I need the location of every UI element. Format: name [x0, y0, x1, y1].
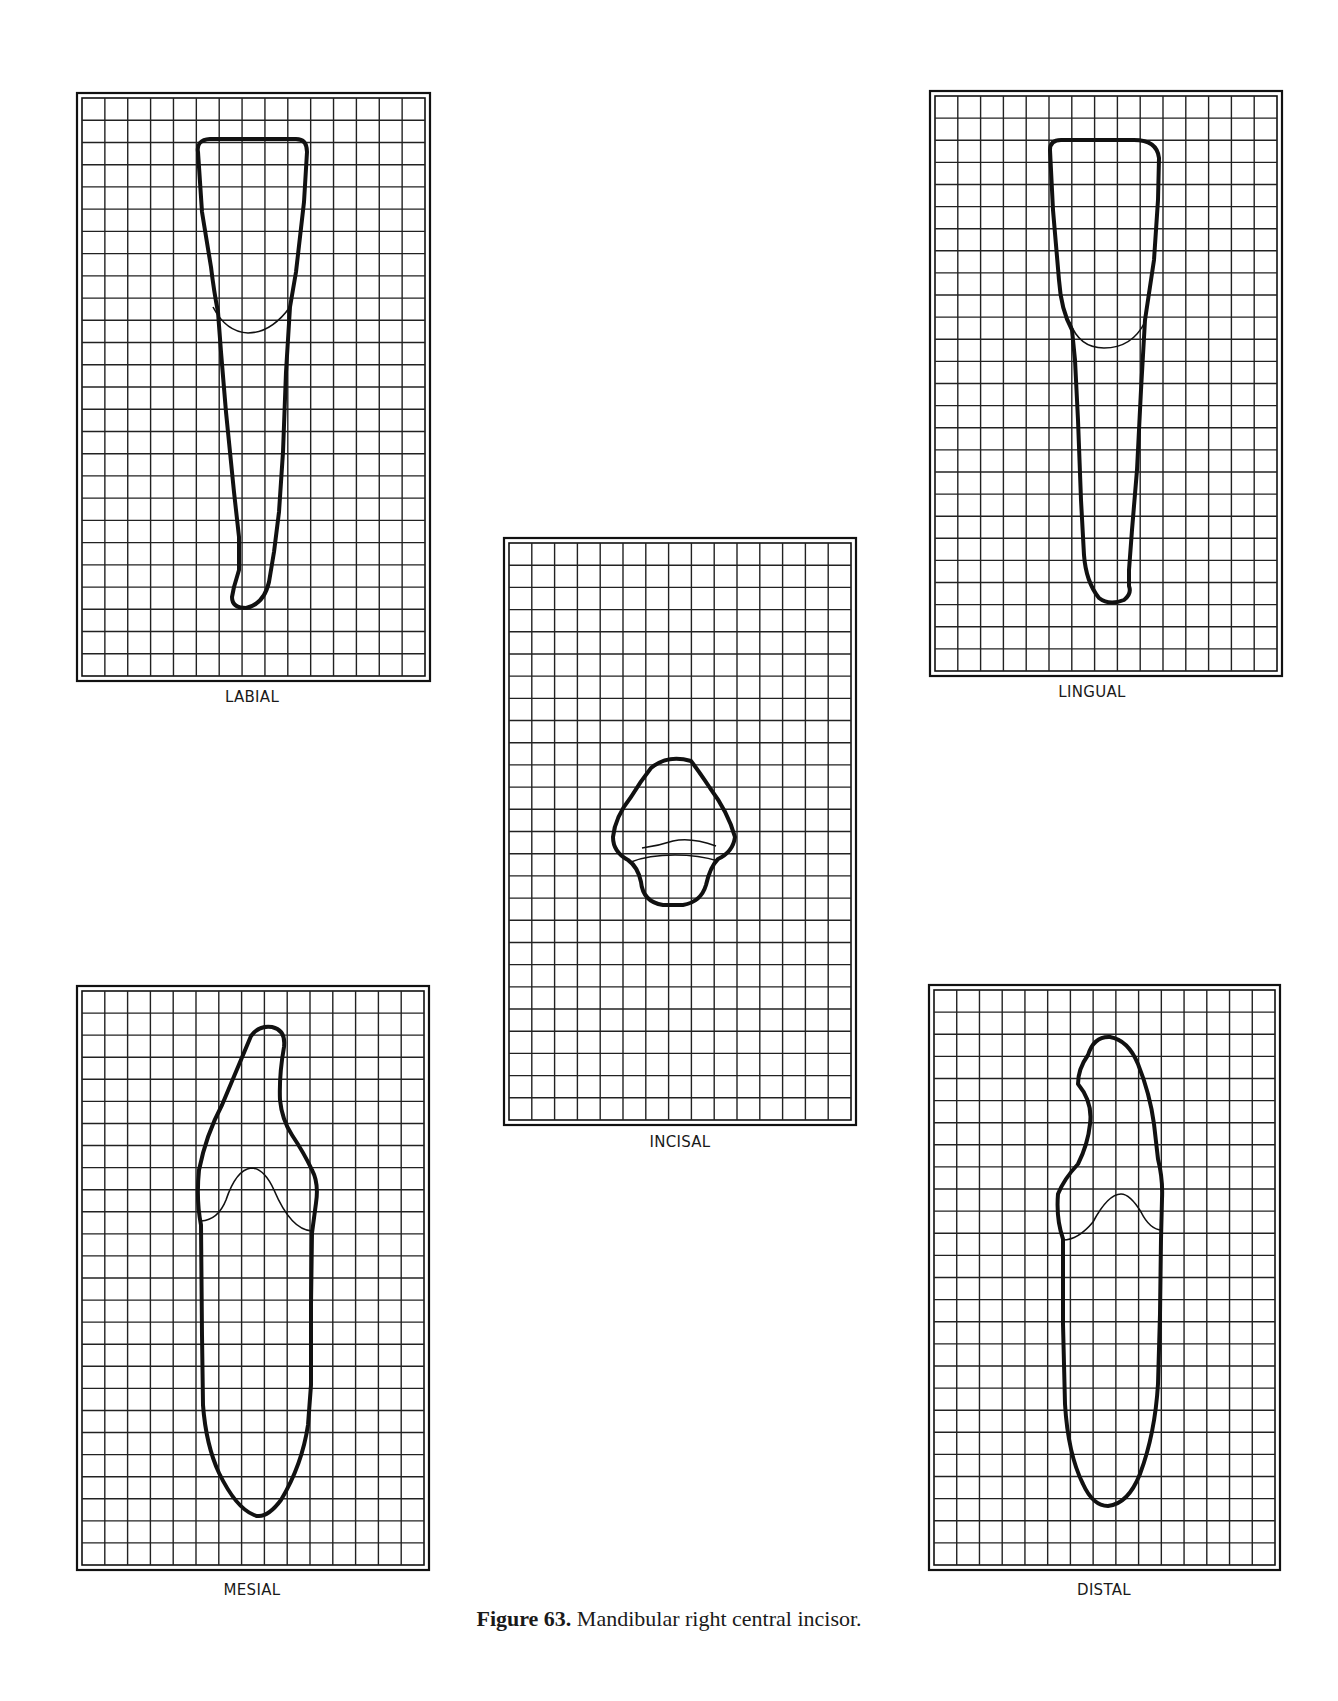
mesial-label: MESIAL	[224, 1581, 281, 1599]
figure-title: Mandibular right central incisor.	[577, 1606, 862, 1631]
mesial-grid	[76, 985, 430, 1571]
mesial-cej-line	[201, 1168, 312, 1231]
lingual-view-panel	[929, 90, 1283, 677]
figure-caption: Figure 63. Mandibular right central inci…	[476, 1606, 861, 1632]
incisal-label: INCISAL	[649, 1133, 710, 1151]
lingual-tooth-outline	[1050, 140, 1159, 603]
mesial-view-panel	[76, 985, 430, 1571]
mesial-tooth-outline	[198, 1027, 317, 1516]
incisal-edge-line	[642, 840, 716, 848]
incisal-view-panel	[503, 537, 857, 1126]
labial-label: LABIAL	[225, 688, 279, 706]
lingual-cej-line	[1070, 322, 1145, 348]
labial-view-panel	[76, 92, 431, 682]
figure-number: Figure 63.	[476, 1606, 571, 1631]
labial-grid	[76, 92, 431, 682]
distal-view-panel	[928, 984, 1281, 1571]
lingual-grid	[929, 90, 1283, 677]
distal-grid	[928, 984, 1281, 1571]
lingual-label: LINGUAL	[1058, 683, 1125, 701]
distal-label: DISTAL	[1077, 1581, 1131, 1599]
incisal-cej-line	[631, 855, 718, 862]
incisal-grid	[503, 537, 857, 1126]
distal-tooth-outline	[1058, 1037, 1163, 1506]
